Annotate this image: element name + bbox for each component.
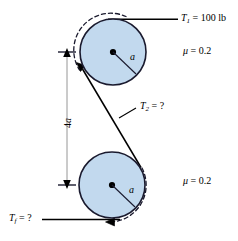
dimension-variable: a	[62, 118, 73, 123]
top-radius-label: a	[130, 52, 135, 62]
tf-label: Tf = ?	[9, 213, 32, 225]
tf-equals: =	[19, 212, 25, 223]
t2-leader-line	[119, 108, 136, 118]
t1-subscript: 1	[187, 17, 191, 25]
mu-top-symbol: μ	[183, 45, 188, 56]
bottom-radius-label: a	[129, 185, 134, 195]
tf-value: ?	[27, 212, 31, 223]
mu-top-value: 0.2	[199, 45, 212, 56]
t2-subscript: 2	[146, 105, 150, 113]
mu-bottom-value: 0.2	[199, 175, 212, 186]
t2-value: ?	[160, 100, 164, 111]
mu-top-label: μ = 0.2	[183, 46, 211, 56]
t2-label: T2 = ?	[140, 101, 164, 113]
pulley-friction-diagram: T1 = 100 lb μ = 0.2 T2 = ? μ = 0.2 Tf = …	[0, 0, 238, 241]
t1-equals: =	[193, 12, 199, 23]
t2-equals: =	[152, 100, 158, 111]
mu-bottom-equals: =	[191, 175, 197, 186]
dimension-label-4a: 4a	[63, 118, 73, 128]
tf-subscript: f	[15, 217, 17, 225]
mu-bottom-label: μ = 0.2	[183, 176, 211, 186]
mu-bottom-symbol: μ	[183, 175, 188, 186]
dimension-number: 4	[62, 123, 73, 128]
t1-value: 100 lb	[201, 12, 226, 23]
mu-top-equals: =	[191, 45, 197, 56]
diagram-canvas	[0, 0, 238, 241]
t1-label: T1 = 100 lb	[181, 13, 226, 25]
